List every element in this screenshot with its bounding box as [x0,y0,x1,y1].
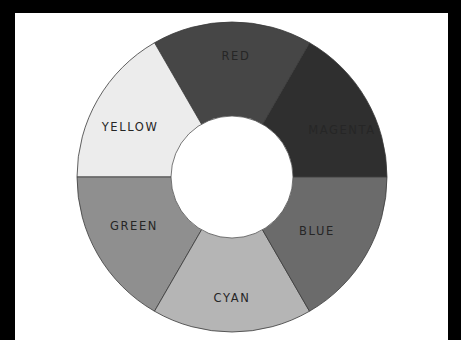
center-hole [171,116,293,238]
segment-label-red: RED [222,49,251,63]
segment-label-cyan: CYAN [214,291,251,305]
segment-label-blue: BLUE [299,224,335,238]
color-wheel: MAGENTA RED YELLOW GREEN CYAN BLUE [0,0,461,340]
segment-label-green: GREEN [110,219,158,233]
segment-label-yellow: YELLOW [101,120,159,134]
segment-label-magenta: MAGENTA [308,123,376,137]
